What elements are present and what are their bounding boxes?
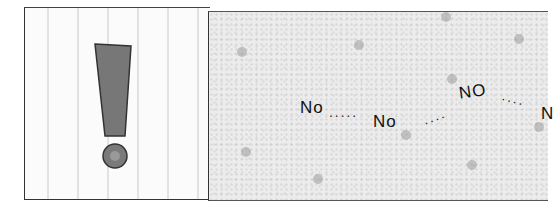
background-dot [354,40,364,50]
background-dot [447,74,457,84]
speech-no-2: No [373,112,397,132]
speech-no-3: NO [458,80,488,104]
background-dot [313,174,323,184]
background-dot [441,12,451,22]
ellipsis-1: ..... [329,106,358,120]
exclamation-dot-icon [101,142,131,172]
background-dot [467,160,477,170]
comic-panel-right: No ..... No .... NO .... N [208,11,548,201]
background-dot [237,47,247,57]
speech-no-1: No [300,98,324,118]
background-dot [401,130,411,140]
background-dot [241,147,251,157]
speech-no-4-partial: N [541,104,554,124]
comic-panel-left [24,7,210,200]
exclamation-icon [93,38,133,138]
ellipsis-3: .... [501,89,527,109]
ellipsis-2: .... [421,106,448,127]
background-dot [514,34,524,44]
